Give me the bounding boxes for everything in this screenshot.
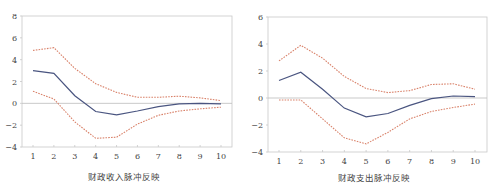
y-tick-label: −2 [5,121,17,130]
expenditure-impulse-chart: 6420−2−412345678910 财政支出脉冲反映 [248,0,496,190]
y-tick-label: −4 [5,143,17,152]
x-tick-label: 3 [72,152,77,161]
x-tick-label: 1 [276,157,281,166]
y-tick-label: 4 [258,40,263,49]
lower-band-line [279,100,475,144]
x-tick-label: 8 [177,152,182,161]
revenue-impulse-chart: 86420−2−412345678910 财政收入脉冲反映 [0,0,248,190]
y-tick-label: 2 [258,67,263,76]
x-tick-label: 10 [470,157,480,166]
plot-frame [268,17,487,152]
upper-band-line [279,45,475,92]
y-tick-label: 8 [12,12,17,21]
y-tick-label: 6 [258,13,263,22]
y-tick-label: 2 [12,78,17,87]
y-tick-label: −4 [251,148,263,157]
x-tick-label: 7 [407,157,412,166]
y-tick-label: 4 [12,56,17,65]
x-tick-label: 7 [156,152,161,161]
lower-band-line [33,91,221,138]
upper-band-line [33,48,221,101]
impulse-response-line [33,71,221,115]
x-tick-label: 5 [364,157,369,166]
expenditure-impulse-plot: 6420−2−412345678910 [248,0,496,190]
y-tick-label: 6 [12,34,17,43]
x-tick-label: 3 [320,157,325,166]
x-tick-label: 9 [451,157,456,166]
revenue-impulse-plot: 86420−2−412345678910 [0,0,248,190]
x-tick-label: 2 [51,152,56,161]
x-tick-label: 6 [135,152,140,161]
x-tick-label: 10 [216,152,226,161]
x-tick-label: 9 [198,152,203,161]
x-tick-label: 4 [93,152,98,161]
impulse-response-line [279,72,475,117]
x-tick-label: 1 [30,152,35,161]
x-tick-label: 6 [385,157,390,166]
revenue-chart-caption: 财政收入脉冲反映 [88,170,160,182]
y-tick-label: 0 [258,94,263,103]
x-tick-label: 5 [114,152,119,161]
expenditure-chart-caption: 财政支出脉冲反映 [338,171,410,183]
x-tick-label: 8 [429,157,434,166]
x-tick-label: 4 [342,157,347,166]
plot-frame [22,16,232,147]
y-tick-label: 0 [12,99,17,108]
x-tick-label: 2 [298,157,303,166]
y-tick-label: −2 [251,121,263,130]
